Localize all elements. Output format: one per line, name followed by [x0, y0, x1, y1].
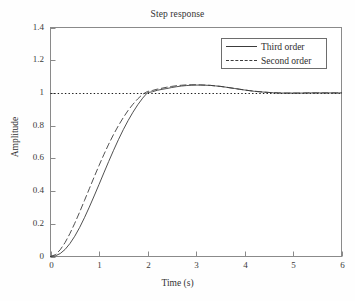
y-tick-label: 1 [18, 87, 44, 97]
x-tick-label: 5 [284, 260, 304, 270]
legend-item[interactable]: Third order [222, 40, 328, 54]
y-axis-label: Amplitude [10, 92, 20, 182]
x-tick-label: 4 [236, 260, 256, 270]
y-tick-label: 0.8 [18, 120, 44, 130]
legend-item[interactable]: Second order [222, 54, 328, 68]
legend[interactable]: Third order Second order [221, 38, 327, 69]
legend-item-label: Second order [261, 54, 311, 68]
x-tick-label: 3 [187, 260, 207, 270]
x-tick-label: 0 [42, 260, 62, 270]
x-tick-label: 1 [90, 260, 110, 270]
legend-line-sample-solid [226, 46, 257, 48]
y-tick-label: 0.6 [18, 152, 44, 162]
x-tick-label: 6 [333, 260, 353, 270]
y-tick-label: 0.2 [18, 218, 44, 228]
y-tick-label: 1.2 [18, 54, 44, 64]
legend-line-sample-dashed [226, 60, 257, 62]
y-tick-label: 1.4 [18, 22, 44, 32]
y-tick-label: 0 [18, 251, 44, 261]
legend-item-label: Third order [261, 40, 305, 54]
x-tick-label: 2 [139, 260, 159, 270]
y-tick-label: 0.4 [18, 185, 44, 195]
chart-title: Step response [0, 9, 355, 19]
x-axis-label: Time (s) [0, 278, 355, 288]
step-response-figure: Step response Time (s) Amplitude 00.20.4… [0, 0, 355, 301]
